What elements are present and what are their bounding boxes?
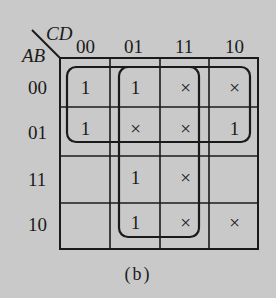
kmap-cell: × — [161, 119, 210, 138]
kmap-cell: 1 — [111, 78, 160, 97]
col-header: 00 — [76, 37, 95, 56]
kmap-cell: × — [210, 213, 259, 232]
col-variables-label: CD — [46, 24, 72, 43]
kmap-cell: 1 — [61, 78, 110, 97]
row-header: 00 — [28, 78, 47, 97]
col-header: 01 — [124, 37, 143, 56]
figure-caption: (b) — [0, 264, 276, 285]
row-header: 10 — [28, 215, 47, 234]
kmap-cell: × — [161, 213, 210, 232]
row-variables-label: AB — [22, 46, 45, 65]
kmap-cell: 1 — [210, 119, 259, 138]
kmap-cell: × — [161, 78, 210, 97]
kmap-cell: × — [111, 119, 160, 138]
col-header: 11 — [175, 37, 193, 56]
kmap-cell: × — [210, 78, 259, 97]
kmap-cell: 1 — [111, 213, 160, 232]
col-header: 10 — [225, 37, 244, 56]
kmap-cell: 1 — [111, 168, 160, 187]
row-header: 01 — [28, 123, 47, 142]
kmap-cell: × — [161, 168, 210, 187]
kmap-cell: 1 — [61, 119, 110, 138]
row-header: 11 — [28, 170, 46, 189]
